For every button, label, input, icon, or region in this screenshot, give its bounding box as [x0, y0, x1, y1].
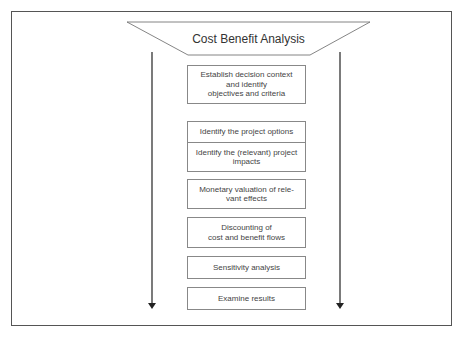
left-down-arrow-icon	[148, 52, 156, 309]
right-down-arrow-icon	[336, 52, 344, 309]
process-step: Establish decision context and identify …	[187, 65, 306, 104]
process-step: Examine results	[187, 287, 306, 310]
process-step: Sensitivity analysis	[187, 256, 306, 279]
process-step: Discounting of cost and benefit flows	[187, 217, 306, 248]
process-step: Identify the project options	[187, 121, 306, 143]
process-step: Identify the (relevant) project impacts	[187, 142, 306, 172]
process-step: Monetary valuation of rele- vant effects	[187, 179, 306, 209]
diagram-title: Cost Benefit Analysis	[127, 32, 370, 46]
